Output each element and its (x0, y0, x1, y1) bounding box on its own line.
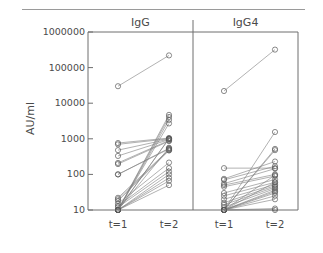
x-tick-igg-t2: t=2 (141, 219, 197, 230)
panel-series-group-igg (115, 53, 171, 213)
series-line (118, 150, 169, 200)
data-point-marker (272, 148, 277, 153)
series-line (118, 55, 169, 86)
series-line (224, 182, 275, 196)
figure-container: IgG IgG4 AU/ml 1000000100000100001000100… (0, 0, 323, 253)
plot-canvas (0, 0, 323, 253)
series-line (224, 50, 275, 91)
series-line (118, 140, 169, 163)
series-line (118, 148, 169, 210)
x-tick-igg-t1: t=1 (90, 219, 146, 230)
series-line (118, 178, 169, 210)
series-line (118, 172, 169, 208)
x-tick-igg4-t2: t=2 (247, 219, 303, 230)
panel-series-group-igg4 (221, 47, 277, 213)
x-tick-igg4-t1: t=1 (196, 219, 252, 230)
series-line (224, 193, 275, 210)
series-line (118, 139, 169, 210)
series-line (118, 123, 169, 210)
data-point-marker (272, 129, 277, 134)
data-point-marker (166, 175, 171, 180)
